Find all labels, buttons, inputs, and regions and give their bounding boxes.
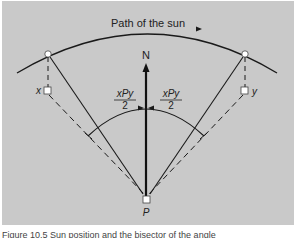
sun-ray-right <box>150 57 243 194</box>
ground-point-x <box>44 87 51 94</box>
ground-point-y <box>241 87 248 94</box>
sun-position-right <box>242 51 248 57</box>
north-arrow-icon <box>143 63 150 72</box>
angle-label-left-denominator: 2 <box>122 100 128 111</box>
point-y-label: y <box>251 86 258 97</box>
north-label: N <box>142 49 150 61</box>
dashed-line-y-to-p <box>149 95 243 194</box>
figure-caption: Figure 10.5 Sun position and the bisecto… <box>2 228 216 238</box>
observer-point-p <box>143 196 150 203</box>
observer-label: P <box>143 207 150 218</box>
sun-path-arrow-icon <box>196 27 202 32</box>
sun-path-diagram: Path of the sun x y N xPy 2 xPy 2 P <box>0 0 296 238</box>
sun-position-left <box>45 51 51 57</box>
sun-ray-left <box>50 57 143 194</box>
dashed-line-x-to-p <box>49 95 144 194</box>
angle-label-left-numerator: xPy <box>116 88 135 99</box>
point-x-label: x <box>35 85 42 96</box>
angle-label-right-numerator: xPy <box>162 88 181 99</box>
sun-path-label: Path of the sun <box>111 17 185 29</box>
angle-label-right-denominator: 2 <box>168 100 174 111</box>
